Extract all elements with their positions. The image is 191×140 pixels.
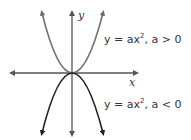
curve-label-up: y = ax2, a > 0 [104,32,181,46]
y-axis-label: y [78,9,84,22]
curve-label-up-main: y = ax [104,33,140,46]
curve-label-up-cond: , a > 0 [144,33,181,46]
curve-label-down-main: y = ax [104,98,140,111]
curve-label-down: y = ax2, a < 0 [104,97,181,111]
curve-label-down-cond: , a < 0 [144,98,181,111]
x-axis-label: x [129,76,135,89]
parabola-diagram [0,0,191,140]
